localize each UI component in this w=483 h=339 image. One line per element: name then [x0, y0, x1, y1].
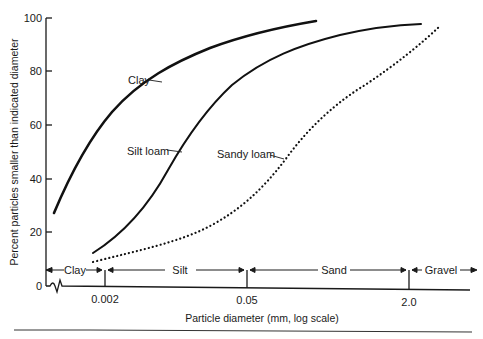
y-tick-40: 40: [30, 173, 42, 185]
y-tick-20: 20: [30, 226, 42, 238]
y-tick-80: 80: [30, 65, 42, 77]
y-tick-100: 100: [24, 12, 42, 24]
y-tick-0: 0: [36, 280, 42, 292]
y-axis: [46, 18, 52, 286]
x-axis: [46, 270, 470, 292]
band-label-sand: Sand: [321, 264, 347, 276]
particle-size-distribution-chart: 100 80 60 40 20 0 Percent particles smal…: [0, 0, 483, 339]
curve-label-clay-leader: [149, 80, 162, 82]
size-class-band: [46, 268, 477, 273]
curve-label-silt-loam: Silt loam: [127, 145, 169, 157]
x-tick-0.002: 0.002: [91, 293, 119, 305]
bottom-rule: [14, 330, 472, 332]
curve-silt-loam: [93, 24, 421, 253]
curve-label-clay: Clay: [128, 74, 151, 86]
band-label-clay: Clay: [64, 264, 87, 276]
curve-label-sandy-loam: Sandy loam: [217, 148, 275, 160]
y-tick-60: 60: [30, 119, 42, 131]
x-tick-2.0: 2.0: [401, 296, 416, 308]
y-axis-title: Percent particles smaller than indicated…: [8, 38, 20, 266]
curve-clay: [54, 21, 316, 213]
x-axis-title: Particle diameter (mm, log scale): [185, 312, 338, 324]
x-tick-0.05: 0.05: [236, 294, 257, 306]
band-label-silt: Silt: [172, 264, 187, 276]
band-label-gravel: Gravel: [425, 264, 457, 276]
